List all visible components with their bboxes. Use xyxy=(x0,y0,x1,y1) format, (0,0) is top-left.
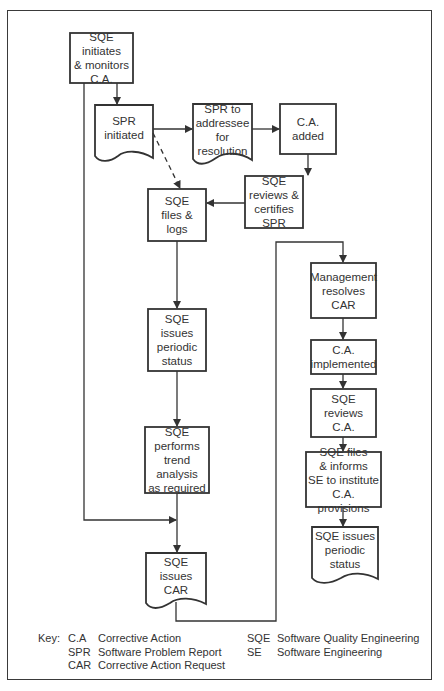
legend-meaning: Corrective Action xyxy=(98,632,181,644)
legend-entry: SQESoftware Quality Engineering xyxy=(247,632,419,646)
legend: Key: C.ACorrective Action SPRSoftware Pr… xyxy=(38,632,428,677)
node-management-resolves: Management resolves CAR xyxy=(311,263,376,318)
node-sqe-initiates: SQE initiates & monitors C.A. xyxy=(70,33,133,83)
legend-abbr: C.A xyxy=(68,632,98,646)
legend-meaning: Software Engineering xyxy=(277,646,382,658)
legend-entry: CARCorrective Action Request xyxy=(68,659,225,673)
node-sqe-reviews-ca: SQE reviews C.A. xyxy=(311,389,376,437)
node-spr-initiated: SPR initiated xyxy=(95,105,153,150)
legend-meaning: Software Quality Engineering xyxy=(277,632,419,644)
node-ca-implemented: C.A. implemented xyxy=(311,340,376,374)
legend-abbr: SE xyxy=(247,646,277,660)
legend-entry: SPRSoftware Problem Report xyxy=(68,646,222,660)
legend-entry: SESoftware Engineering xyxy=(247,646,382,660)
node-sqe-issues-periodic-status: SQE issues periodic status xyxy=(148,309,206,371)
node-sqe-issues-periodic-status-doc: SQE issues periodic status xyxy=(312,527,378,573)
node-sqe-files-informs: SQE files & informs SE to institute C.A.… xyxy=(306,452,381,507)
legend-abbr: CAR xyxy=(68,659,98,673)
node-sqe-reviews-certifies: SQE reviews & certifies SPR xyxy=(245,176,303,228)
node-sqe-trend-analysis: SQE performs trend analysis as required xyxy=(145,427,209,493)
node-sqe-files-logs: SQE files & logs xyxy=(148,189,206,241)
legend-abbr: SQE xyxy=(247,632,277,646)
legend-meaning: Software Problem Report xyxy=(98,646,222,658)
node-spr-to-addressee: SPR to addressee for resolution xyxy=(193,104,252,156)
legend-abbr: SPR xyxy=(68,646,98,660)
legend-label: Key: xyxy=(38,632,60,646)
node-sqe-issues-car: SQE issues CAR xyxy=(146,553,206,599)
legend-entry: C.ACorrective Action xyxy=(68,632,181,646)
legend-meaning: Corrective Action Request xyxy=(98,659,225,671)
node-ca-added: C.A. added xyxy=(280,104,336,154)
